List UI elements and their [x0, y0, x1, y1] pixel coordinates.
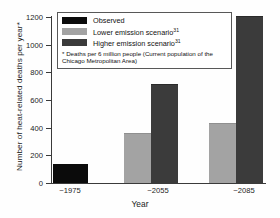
x-tick-label-2085: ~2085	[218, 186, 270, 195]
y-tick-label-1000: 1000	[12, 41, 43, 50]
x-tick-label-2055: ~2055	[132, 186, 184, 195]
bar-observed-1975	[53, 164, 88, 183]
legend-swatch-observed	[62, 17, 87, 24]
y-tick-label-1200: 1200	[12, 13, 43, 22]
chart-legend: Observed Lower emission scenario31 Highe…	[57, 12, 232, 69]
legend-item-lower: Lower emission scenario31	[62, 27, 227, 37]
bar-lower-2055	[124, 133, 151, 183]
bar-higher-2055	[151, 84, 178, 183]
legend-swatch-higher	[62, 39, 87, 46]
bar-lower-2085	[209, 123, 236, 184]
legend-ref-higher: 31	[175, 38, 181, 44]
y-tick-label-0: 0	[12, 179, 43, 188]
legend-item-observed: Observed	[62, 16, 227, 26]
legend-ref-lower: 31	[173, 27, 179, 33]
x-tick-label-1975: ~1975	[44, 186, 96, 195]
legend-label-lower: Lower emission scenario31	[93, 27, 179, 37]
legend-label-lower-text: Lower emission scenario	[93, 28, 173, 37]
y-tick-0	[46, 183, 52, 184]
legend-label-higher-text: Higher emission scenario	[93, 39, 175, 48]
legend-label-observed: Observed	[93, 16, 125, 25]
y-tick-label-800: 800	[12, 68, 43, 77]
legend-item-higher: Higher emission scenario31	[62, 38, 227, 48]
legend-label-higher: Higher emission scenario31	[93, 38, 181, 48]
legend-swatch-lower	[62, 28, 87, 35]
bar-higher-2085	[236, 16, 263, 183]
y-tick-label-200: 200	[12, 151, 43, 160]
x-axis-title: Year	[0, 199, 280, 209]
y-tick-label-600: 600	[12, 96, 43, 105]
legend-footnote: * Deaths per 6 million people (Current p…	[62, 50, 227, 65]
y-tick-label-400: 400	[12, 124, 43, 133]
x-axis-line	[51, 183, 266, 184]
chart-figure: Number of heat-related deaths per year* …	[0, 0, 280, 218]
